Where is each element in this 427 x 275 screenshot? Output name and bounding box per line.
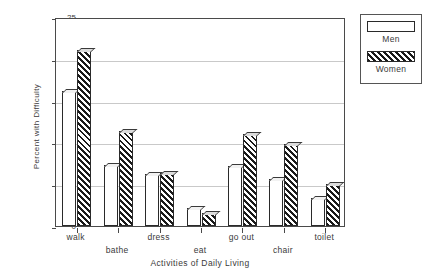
x-axis-title: Activities of Daily Living xyxy=(55,258,345,268)
y-tick-mark xyxy=(52,228,56,229)
x-tick-mark xyxy=(284,228,285,233)
legend-label-women: Women xyxy=(367,64,415,74)
bar-go-out-women xyxy=(243,134,257,226)
legend-swatch-women xyxy=(367,51,415,62)
bar-toilet-men xyxy=(311,198,325,226)
legend: Men Women xyxy=(360,14,422,84)
bar-chair-women xyxy=(284,144,298,226)
x-tick-label-eat: eat xyxy=(170,245,230,255)
bar-eat-men xyxy=(187,208,201,226)
legend-label-men: Men xyxy=(367,34,415,44)
y-tick-mark xyxy=(52,186,56,187)
y-tick-mark xyxy=(52,103,56,104)
x-tick-label-bathe: bathe xyxy=(87,245,147,255)
y-tick-mark xyxy=(52,19,56,20)
y-axis-title: Percent with Difficulty xyxy=(32,47,41,207)
x-tick-label-chair: chair xyxy=(253,245,313,255)
bar-bathe-women xyxy=(119,131,133,226)
x-tick-label-walk: walk xyxy=(46,232,106,242)
bar-walk-women xyxy=(77,50,91,226)
x-tick-label-dress: dress xyxy=(129,232,189,242)
gridline xyxy=(56,186,344,187)
gridline xyxy=(56,103,344,104)
gridline xyxy=(56,144,344,145)
gridline xyxy=(56,61,344,62)
bar-walk-men xyxy=(62,91,76,226)
bar-chair-men xyxy=(269,179,283,226)
legend-swatch-men xyxy=(367,21,415,32)
x-tick-label-go-out: go out xyxy=(211,232,271,242)
bar-toilet-women xyxy=(326,184,340,226)
plot-area xyxy=(55,18,345,227)
y-tick-mark xyxy=(52,61,56,62)
x-tick-mark xyxy=(118,228,119,233)
bar-dress-men xyxy=(145,174,159,226)
bar-bathe-men xyxy=(104,165,118,226)
chart-figure: Percent with Difficulty 0510152025 walkb… xyxy=(0,0,427,275)
bar-dress-women xyxy=(160,173,174,227)
bar-eat-women xyxy=(202,213,216,226)
x-tick-label-toilet: toilet xyxy=(294,232,354,242)
y-tick-mark xyxy=(52,144,56,145)
bar-go-out-men xyxy=(228,166,242,226)
x-tick-mark xyxy=(201,228,202,233)
